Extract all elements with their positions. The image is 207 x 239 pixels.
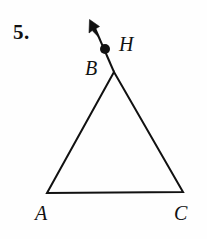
point-label-h: H xyxy=(119,34,133,54)
vertex-label-b: B xyxy=(85,58,97,78)
filled-dot-icon xyxy=(100,44,110,54)
triangle-abc xyxy=(47,72,183,193)
vertex-label-a: A xyxy=(35,203,47,223)
problem-number: 5. xyxy=(13,22,30,43)
geometry-figure: 5. B H A C xyxy=(0,0,207,239)
vertex-label-c: C xyxy=(174,203,187,223)
